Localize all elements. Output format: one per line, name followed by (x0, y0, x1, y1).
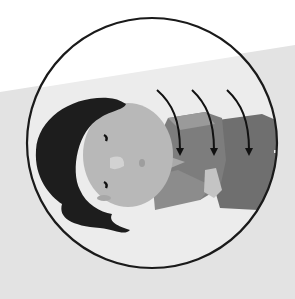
mouth (139, 159, 145, 167)
cheek (97, 195, 111, 201)
illustration (0, 0, 295, 299)
illustration-canvas (0, 0, 295, 299)
